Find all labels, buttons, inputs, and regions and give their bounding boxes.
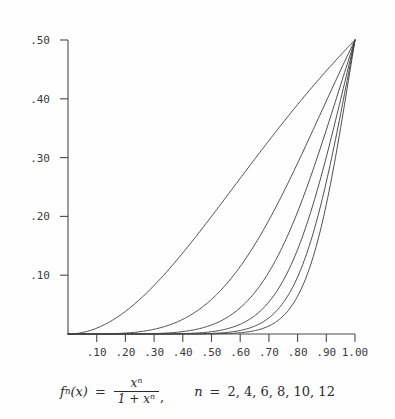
x-tick-label: .90	[316, 346, 336, 359]
x-tick-label: .20	[115, 346, 135, 359]
n-equals-sign: =	[210, 384, 221, 399]
x-tick-label: 1.00	[342, 346, 369, 359]
x-tick-label: .10	[87, 346, 107, 359]
curve-n-6	[68, 40, 355, 334]
equals-sign: =	[95, 384, 106, 399]
x-tick-label: .30	[144, 346, 164, 359]
y-tick-label: .30	[30, 152, 50, 165]
plot-curves	[68, 40, 355, 334]
y-tick-label: .50	[30, 34, 50, 47]
curve-n-12	[68, 40, 355, 334]
curve-n-4	[68, 40, 355, 334]
y-axis: .10.20.30.40.50	[30, 34, 68, 334]
curve-n-8	[68, 40, 355, 334]
x-axis: .10.20.30.40.50.60.70.80.901.00	[68, 334, 368, 359]
y-axis-ticks	[60, 40, 68, 275]
numerator-exponent: n	[137, 376, 142, 385]
figure-container: .10.20.30.40.50 .10.20.30.40.50.60.70.80…	[0, 0, 395, 419]
x-tick-label: .40	[173, 346, 193, 359]
x-tick-label: .60	[230, 346, 250, 359]
denominator-base: 1 + x	[118, 392, 150, 406]
y-axis-tick-labels: .10.20.30.40.50	[30, 34, 50, 282]
x-axis-tick-labels: .10.20.30.40.50.60.70.80.901.00	[87, 346, 368, 359]
n-values-list: 2, 4, 6, 8, 10, 12	[227, 384, 335, 399]
curve-n-10	[68, 40, 355, 334]
x-tick-label: .70	[259, 346, 279, 359]
x-tick-label: .80	[288, 346, 308, 359]
formula-caption: fn(x) = xn 1 + xn , n=2, 4, 6, 8, 10, 12	[0, 377, 395, 405]
y-tick-label: .10	[30, 269, 50, 282]
fraction-comma: ,	[160, 389, 164, 405]
n-variable: n	[194, 384, 202, 399]
x-tick-label: .50	[202, 346, 222, 359]
formula-expression: fn(x) = xn 1 + xn , n=2, 4, 6, 8, 10, 12	[60, 377, 335, 405]
function-plot: .10.20.30.40.50 .10.20.30.40.50.60.70.80…	[0, 0, 395, 419]
curve-n-2	[68, 40, 355, 334]
x-axis-ticks	[97, 334, 355, 342]
fraction-denominator: 1 + xn	[114, 392, 159, 406]
function-argument: (x)	[70, 384, 87, 399]
fraction-numerator: xn	[126, 377, 146, 391]
y-tick-label: .20	[30, 210, 50, 223]
fraction: xn 1 + xn	[114, 377, 159, 405]
y-tick-label: .40	[30, 93, 50, 106]
denominator-exponent: n	[150, 392, 155, 401]
n-values-annotation: n=2, 4, 6, 8, 10, 12	[194, 384, 335, 399]
